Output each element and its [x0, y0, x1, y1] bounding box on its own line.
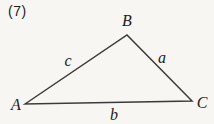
vertex-label-b: B — [122, 13, 132, 29]
vertex-label-c: C — [197, 95, 208, 111]
triangle-figure — [0, 0, 214, 124]
side-label-b: b — [110, 107, 118, 123]
side-label-a: a — [158, 50, 166, 66]
vertex-label-a: A — [11, 97, 21, 113]
side-label-c: c — [64, 53, 71, 69]
worksheet-figure-panel: (7) A B C a b c — [0, 0, 214, 124]
triangle-outline — [25, 35, 192, 104]
